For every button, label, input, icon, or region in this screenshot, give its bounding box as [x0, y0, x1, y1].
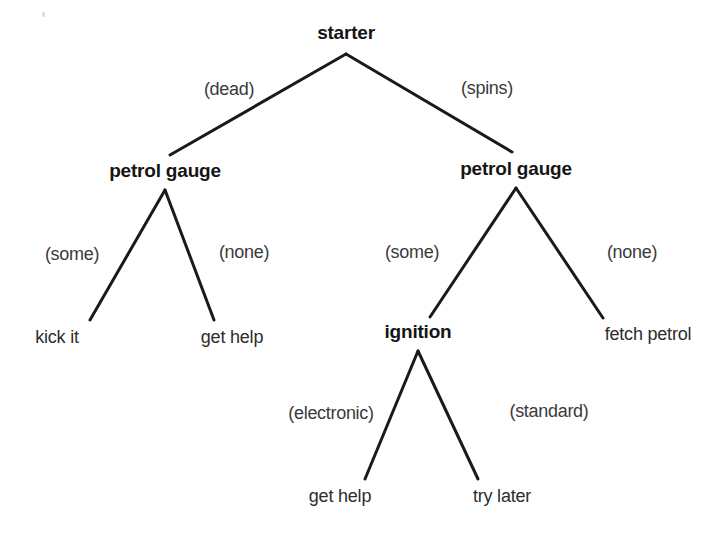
tree-node-internal: petrol gauge	[460, 159, 572, 178]
edge-label: (some)	[45, 245, 99, 263]
tree-edge	[430, 188, 516, 317]
scan-artifact	[42, 12, 45, 17]
tree-node-internal: starter	[317, 23, 375, 42]
edge-label: (electronic)	[288, 404, 373, 422]
tree-edge	[516, 188, 603, 318]
edge-label: (standard)	[509, 402, 588, 420]
edge-label: (spins)	[461, 79, 513, 97]
tree-node-leaf: kick it	[35, 328, 79, 346]
tree-node-leaf: fetch petrol	[605, 325, 692, 343]
edge-label: (none)	[607, 243, 657, 261]
tree-edge	[90, 190, 165, 320]
tree-node-leaf: get help	[309, 487, 371, 505]
tree-node-internal: ignition	[385, 322, 452, 341]
tree-edge	[170, 54, 346, 155]
tree-edge	[346, 54, 512, 152]
tree-node-internal: petrol gauge	[109, 161, 221, 180]
edge-label: (none)	[219, 243, 269, 261]
tree-node-leaf: try later	[473, 487, 531, 505]
tree-edge	[418, 351, 478, 479]
edge-label: (dead)	[204, 80, 254, 98]
tree-edge	[165, 190, 214, 320]
edge-label: (some)	[385, 243, 439, 261]
tree-node-leaf: get help	[201, 328, 263, 346]
decision-tree-diagram: (dead)(spins)(some)(none)(some)(none)(el…	[0, 0, 728, 533]
tree-edges-layer	[0, 0, 728, 533]
